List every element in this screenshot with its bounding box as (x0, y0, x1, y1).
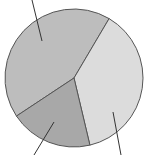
pie-chart (0, 0, 146, 155)
